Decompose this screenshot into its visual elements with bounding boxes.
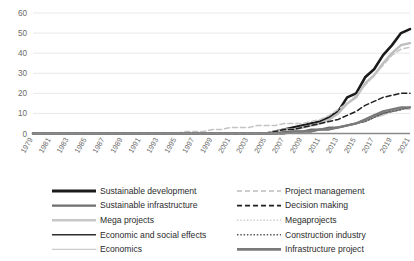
publication-trend-line-chart: 0102030405060 19791981198319851987198919… (0, 0, 414, 261)
legend-label-mega-projects: Mega projects (100, 215, 154, 225)
series-line-project-management (33, 47, 410, 133)
x-tick-label: 1999 (198, 136, 214, 155)
y-tick-label: 50 (18, 29, 28, 38)
x-tick-label: 1995 (162, 136, 178, 155)
y-tick-label: 30 (18, 69, 28, 78)
series-line-sustainable-development (33, 29, 410, 133)
x-tick-label: 2017 (360, 136, 376, 155)
legend-label-infrastructure-project: Infrastructure project (285, 244, 364, 254)
x-tick-label: 1997 (180, 136, 196, 155)
x-tick-label: 2005 (252, 136, 268, 155)
legend-label-project-management: Project management (285, 186, 365, 196)
x-tick-label: 1979 (19, 136, 35, 155)
x-tick-label: 2015 (342, 136, 358, 155)
x-tick-label: 1981 (37, 136, 53, 155)
x-axis-tick-labels: 1979198119831985198719891991199319951997… (19, 136, 412, 155)
x-tick-label: 2009 (288, 136, 304, 155)
chart-legend: Sustainable developmentSustainable infra… (52, 186, 366, 254)
legend-label-megaprojects: Megaprojects (285, 215, 337, 225)
y-tick-label: 40 (18, 49, 28, 58)
x-tick-label: 1989 (108, 136, 124, 155)
x-tick-label: 2003 (234, 136, 250, 155)
legend-label-decision-making: Decision making (285, 200, 348, 210)
legend-label-sustainable-infrastructure: Sustainable infrastructure (100, 200, 198, 210)
x-tick-label: 1991 (126, 136, 142, 155)
x-tick-label: 2007 (270, 136, 286, 155)
legend-label-economic-and-social-effects: Economic and social effects (100, 230, 206, 240)
x-tick-label: 2013 (324, 136, 340, 155)
x-tick-label: 2021 (396, 136, 412, 155)
x-tick-label: 2019 (378, 136, 394, 155)
y-tick-label: 10 (18, 109, 28, 118)
x-tick-label: 1985 (73, 136, 89, 155)
legend-label-economics: Economics (100, 244, 142, 254)
x-tick-label: 2001 (216, 136, 232, 155)
legend-label-construction-industry: Construction industry (285, 230, 366, 240)
legend-label-sustainable-development: Sustainable development (100, 186, 197, 196)
x-tick-label: 2011 (306, 136, 322, 154)
y-tick-label: 60 (18, 9, 28, 18)
chart-canvas: 0102030405060 19791981198319851987198919… (0, 0, 414, 261)
x-tick-label: 1987 (91, 136, 107, 155)
y-tick-label: 20 (18, 89, 28, 98)
x-tick-label: 1983 (55, 136, 71, 155)
y-axis-tick-labels: 0102030405060 (18, 9, 28, 139)
data-series-group (33, 29, 410, 133)
series-line-mega-projects (33, 43, 410, 133)
x-tick-label: 1993 (144, 136, 160, 155)
